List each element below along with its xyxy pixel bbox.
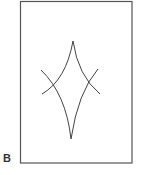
diagram-figure: B (0, 0, 145, 175)
figure-frame (21, 2, 133, 164)
lower-right-arc (71, 69, 98, 139)
upper-left-arc (42, 41, 73, 94)
panel-label: B (3, 153, 11, 164)
diagram-canvas (0, 0, 145, 175)
lower-left-arc (41, 70, 71, 139)
